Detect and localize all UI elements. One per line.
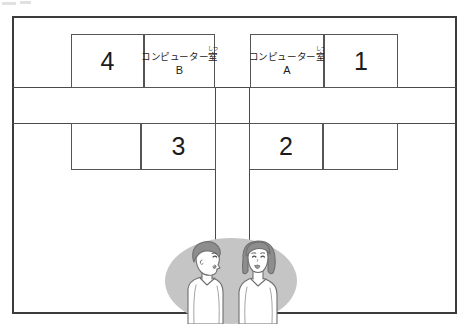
frame-left-edge [12,16,14,313]
furigana: しつ [208,45,218,51]
room-name-kanji-with-furigana: 室しつ [208,51,218,62]
girl-figure [239,241,277,324]
room-2-label: 2 [279,134,293,159]
room-computer-b-sublabel: B [176,63,183,77]
scan-artifact [2,2,16,5]
room-computer-a-sublabel: A [283,63,290,77]
frame-top-edge [12,16,457,18]
corridor-gap-left-vertical [215,88,216,123]
room-computer-a[interactable]: コンピューター室しつ A [250,34,324,88]
room-blank-right[interactable] [323,123,398,170]
floor-plan-diagram: 4 コンピューター室しつ B コンピューター室しつ A 1 3 2 [0,0,468,324]
room-1[interactable]: 1 [324,34,398,88]
room-computer-b[interactable]: コンピューター室しつ B [144,34,215,88]
people-illustration [160,233,310,324]
room-computer-a-label: コンピューター室しつ [249,45,326,63]
room-4-label: 4 [101,49,115,74]
room-2[interactable]: 2 [249,123,323,170]
room-1-label: 1 [354,49,368,74]
scan-artifact [20,1,31,4]
frame-right-edge [455,16,457,313]
room-blank-left[interactable] [71,123,141,170]
room-4[interactable]: 4 [71,34,144,88]
room-computer-b-label: コンピューター室しつ [141,45,218,63]
room-3-label: 3 [172,134,186,159]
girl-mouth [255,265,260,269]
room-3[interactable]: 3 [141,123,216,170]
boy-figure [188,242,223,324]
room-computer-a-name-main: コンピューター室しつ [249,51,326,62]
room-computer-b-name-main: コンピューター室しつ [141,51,218,62]
corridor-gap-right-vertical [249,88,250,123]
